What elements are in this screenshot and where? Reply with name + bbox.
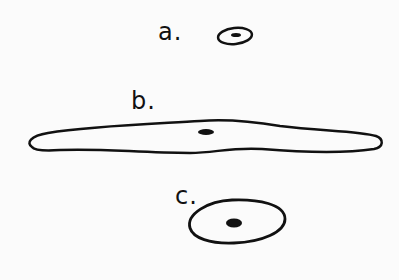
diagram-canvas: a. b. c. <box>0 0 399 280</box>
shape-a <box>217 26 252 45</box>
shape-b <box>29 120 381 153</box>
diagram-drawing <box>0 0 399 280</box>
shape-c <box>190 200 285 243</box>
